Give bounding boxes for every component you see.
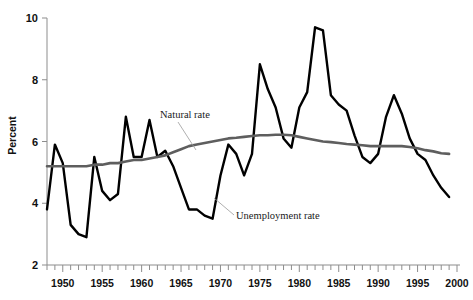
x-tick-label: 1975 — [248, 277, 272, 289]
y-tick-label: 2 — [32, 259, 38, 271]
x-tick-label: 1970 — [209, 277, 233, 289]
natural-rate-label: Natural rate — [160, 109, 210, 120]
x-tick-label: 1990 — [366, 277, 390, 289]
y-tick-label: 6 — [32, 136, 38, 148]
y-axis-title: Percent — [6, 116, 18, 155]
unemployment-natural-rate-chart: 2468101950195519601965197019751980198519… — [0, 0, 473, 300]
y-tick-label: 4 — [32, 197, 39, 209]
axes: 2468101950195519601965197019751980198519… — [6, 12, 469, 289]
y-tick-label: 8 — [32, 74, 38, 86]
x-tick-label: 1995 — [406, 277, 430, 289]
chart-container: 2468101950195519601965197019751980198519… — [0, 0, 473, 300]
x-tick-label: 1955 — [91, 277, 115, 289]
x-tick-label: 1985 — [327, 277, 351, 289]
x-tick-label: 2000 — [445, 277, 469, 289]
data-series — [47, 27, 449, 237]
x-tick-label: 1950 — [51, 277, 75, 289]
unemployment-rate-line — [47, 27, 449, 237]
y-tick-label: 10 — [26, 12, 38, 24]
x-tick-label: 1980 — [288, 277, 312, 289]
x-tick-label: 1965 — [169, 277, 193, 289]
unemployment-rate-label: Unemployment rate — [236, 210, 320, 221]
unemployment-rate-label-leader — [214, 198, 234, 215]
x-tick-label: 1960 — [130, 277, 154, 289]
